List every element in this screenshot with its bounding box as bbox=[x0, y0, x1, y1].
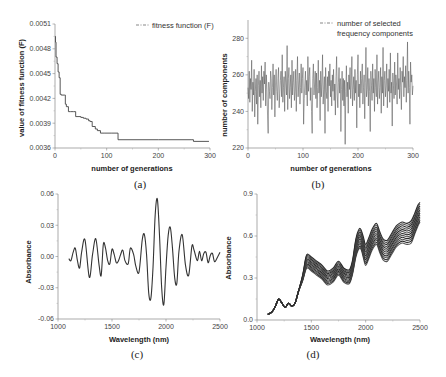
x-tick-label: 1000 bbox=[249, 324, 265, 331]
x-tick-label: 100 bbox=[297, 152, 309, 159]
spectrum-line bbox=[268, 206, 420, 314]
x-tick-label: 200 bbox=[352, 152, 364, 159]
y-tick-label: 240 bbox=[232, 108, 244, 115]
panel-d-ylabel: Absorbance bbox=[224, 236, 233, 279]
panel-b-legend-line1: number of selected bbox=[337, 19, 401, 28]
y-tick-label: 0.0036 bbox=[30, 144, 52, 151]
x-tick-label: 0 bbox=[53, 152, 57, 159]
y-tick-label: 0.6 bbox=[243, 232, 253, 239]
panel-c-absorbance-line bbox=[69, 198, 220, 305]
panel-b-legend: number of selected frequency components bbox=[320, 19, 413, 38]
y-tick-label: 260 bbox=[232, 71, 244, 78]
panel-a-fitness-line bbox=[55, 36, 209, 141]
panel-b: 2202402602800100200300 number of selecte… bbox=[220, 19, 419, 191]
x-tick-label: 2500 bbox=[212, 323, 228, 330]
y-tick-label: 0.03 bbox=[40, 222, 54, 229]
panel-a-caption: (a) bbox=[134, 178, 147, 191]
y-tick-label: -0.06 bbox=[38, 315, 54, 322]
panel-a: 0.00360.00390.00420.00450.00480.00510100… bbox=[17, 20, 216, 191]
panel-b-ylabel: number of components bbox=[220, 53, 229, 136]
x-tick-label: 2000 bbox=[158, 323, 174, 330]
y-tick-label: 0.3 bbox=[243, 274, 253, 281]
panel-c-caption: (c) bbox=[131, 348, 144, 361]
panel-d: 0.00.30.60.91000150020002500 Wavelength … bbox=[224, 190, 428, 361]
panel-a-legend: fitness function (F) bbox=[136, 21, 214, 30]
panel-d-spectra-lines bbox=[268, 202, 420, 314]
panel-d-xlabel: Wavelength (nm) bbox=[310, 335, 371, 344]
spectrum-line bbox=[268, 204, 420, 314]
panel-b-components-line bbox=[248, 42, 413, 144]
y-tick-label: 0.0045 bbox=[30, 70, 52, 77]
panel-c-xlabel: Wavelength (nm) bbox=[109, 335, 170, 344]
panel-b-xlabel: number of generations bbox=[290, 164, 371, 173]
x-tick-label: 1500 bbox=[304, 324, 320, 331]
x-tick-label: 2500 bbox=[412, 324, 428, 331]
y-tick-label: -0.03 bbox=[38, 284, 54, 291]
x-tick-label: 0 bbox=[246, 152, 250, 159]
x-tick-label: 300 bbox=[204, 152, 216, 159]
panel-a-legend-label: fitness function (F) bbox=[152, 21, 214, 30]
x-tick-label: 300 bbox=[407, 152, 419, 159]
panel-d-axes: 0.00.30.60.91000150020002500 bbox=[243, 190, 428, 331]
y-tick-label: 0.0048 bbox=[30, 45, 52, 52]
y-tick-label: 0.0051 bbox=[30, 20, 52, 27]
panel-c: -0.06-0.030.000.030.061000150020002500 W… bbox=[24, 190, 228, 361]
panel-d-caption: (d) bbox=[307, 348, 320, 361]
y-tick-label: 0.00 bbox=[40, 253, 54, 260]
x-tick-label: 100 bbox=[101, 152, 113, 159]
x-tick-label: 1000 bbox=[50, 323, 66, 330]
y-tick-label: 0.9 bbox=[243, 190, 253, 197]
y-tick-label: 220 bbox=[232, 144, 244, 151]
spectrum-line bbox=[268, 202, 420, 314]
figure-panels: 0.00360.00390.00420.00450.00480.00510100… bbox=[0, 0, 446, 377]
panel-c-axes: -0.06-0.030.000.030.061000150020002500 bbox=[38, 190, 228, 330]
y-tick-label: 0.0039 bbox=[30, 120, 52, 127]
spectrum-line bbox=[268, 215, 420, 315]
x-tick-label: 1500 bbox=[104, 323, 120, 330]
spectrum-line bbox=[268, 208, 420, 315]
x-tick-label: 2000 bbox=[358, 324, 374, 331]
panel-b-caption: (b) bbox=[312, 178, 325, 191]
panel-a-ylabel: value of fitness function (F) bbox=[17, 39, 26, 137]
y-tick-label: 0.0042 bbox=[30, 95, 52, 102]
panel-a-axes: 0.00360.00390.00420.00450.00480.00510100… bbox=[30, 20, 216, 159]
panel-a-xlabel: number of generations bbox=[91, 164, 172, 173]
x-tick-label: 200 bbox=[152, 152, 164, 159]
panel-b-legend-line2: frequency components bbox=[337, 29, 413, 38]
y-tick-label: 0.06 bbox=[40, 190, 54, 197]
panel-c-ylabel: Absorbance bbox=[24, 240, 33, 283]
y-tick-label: 280 bbox=[232, 35, 244, 42]
y-tick-label: 0.0 bbox=[243, 316, 253, 323]
